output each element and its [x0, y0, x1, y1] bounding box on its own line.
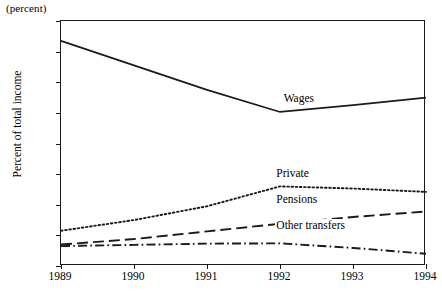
y-tick-mark	[56, 82, 61, 83]
series-line-private	[61, 186, 426, 230]
series-label-private: Private	[275, 167, 310, 179]
x-tick-mark	[280, 264, 281, 269]
x-tick-mark	[353, 264, 354, 269]
y-tick-mark	[56, 52, 61, 53]
y-tick-mark	[56, 113, 61, 114]
plot-svg	[61, 21, 426, 266]
x-tick-label: 1992	[249, 270, 309, 282]
series-label-pensions: Pensions	[275, 193, 318, 205]
x-tick-mark	[134, 264, 135, 269]
x-tick-mark	[207, 264, 208, 269]
y-tick-mark	[56, 144, 61, 145]
y-tick-mark	[56, 235, 61, 236]
series-label-wages: Wages	[283, 92, 315, 104]
x-tick-mark	[426, 264, 427, 269]
x-tick-label: 1990	[103, 270, 163, 282]
x-tick-label: 1994	[395, 270, 442, 282]
x-tick-label: 1991	[176, 270, 236, 282]
series-line-pensions	[61, 211, 426, 244]
x-tick-label: 1989	[30, 270, 90, 282]
x-tick-label: 1993	[322, 270, 382, 282]
percent-unit-note: (percent)	[6, 2, 47, 14]
series-line-other-transfers	[61, 243, 426, 253]
y-tick-mark	[56, 205, 61, 206]
series-line-wages	[61, 41, 426, 112]
plot-area	[60, 20, 425, 265]
income-composition-line-chart: (percent) Percent of total income 010203…	[0, 0, 442, 292]
x-tick-mark	[61, 264, 62, 269]
series-label-other-transfers: Other transfers	[275, 219, 346, 231]
y-tick-mark	[56, 21, 61, 22]
y-axis-title: Percent of total income	[11, 44, 23, 204]
y-tick-mark	[56, 174, 61, 175]
